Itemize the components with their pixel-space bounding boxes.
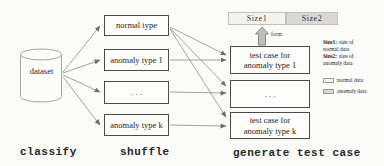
type-box-ellipsis: . . .: [104, 81, 169, 104]
type-box-normal: normal type: [104, 15, 169, 36]
normal-to-testcase-arrows: [170, 27, 226, 117]
size-bar-segment-2: Size2: [286, 12, 338, 25]
legend-item-normal: normal data: [323, 77, 363, 83]
size-note-line: anomaly data: [323, 60, 367, 67]
test-case-box-ellipsis: . . .: [230, 80, 310, 108]
type-box-label: normal type: [116, 20, 157, 31]
test-case-line: test case for: [250, 115, 291, 126]
size1-label: Size1: [247, 14, 267, 23]
size-note-line: Size2:size of: [323, 53, 367, 60]
classify-arrows: [63, 26, 100, 125]
anomaly-to-testcase-arrows: [170, 60, 226, 126]
size-note-line: normal data: [323, 46, 367, 53]
stage-label-generate: generate test case: [233, 147, 361, 159]
form-arrow-label: form: [271, 31, 282, 37]
diagram-canvas: normal type anomaly type 1 . . . anomaly…: [0, 0, 384, 166]
test-case-line: anomaly type 1: [244, 60, 296, 71]
test-case-box-1: test case for anomaly type 1: [230, 46, 310, 74]
type-box-label: . . .: [131, 87, 142, 98]
type-box-anomaly-1: anomaly type 1: [104, 49, 169, 71]
legend-label: normal data: [337, 77, 363, 83]
type-box-label: anomaly type k: [110, 120, 162, 131]
legend-label: anomaly data: [337, 88, 366, 94]
size2-label: Size2: [302, 14, 322, 23]
normal-data-swatch-icon: [323, 78, 334, 83]
test-case-box-k: test case for anomaly type k: [230, 112, 310, 139]
dataset-label: dataset: [21, 66, 62, 76]
size-bar-segment-1: Size1: [228, 12, 286, 25]
anomaly-data-swatch-icon: [323, 89, 334, 94]
stage-label-classify: classify: [20, 146, 77, 158]
stage-label-shuffle: shuffle: [120, 146, 170, 158]
test-case-line: test case for: [250, 50, 291, 61]
test-case-line: anomaly type k: [244, 126, 296, 137]
form-up-arrow-icon: [256, 27, 269, 45]
test-case-line: . . .: [265, 89, 276, 100]
size-note: Size1:size of normal data Size2:size of …: [323, 39, 367, 67]
type-box-anomaly-k: anomaly type k: [104, 114, 169, 136]
size-note-line: Size1:size of: [323, 39, 367, 46]
type-box-label: anomaly type 1: [110, 55, 162, 66]
legend-item-anomaly: anomaly data: [323, 88, 366, 94]
